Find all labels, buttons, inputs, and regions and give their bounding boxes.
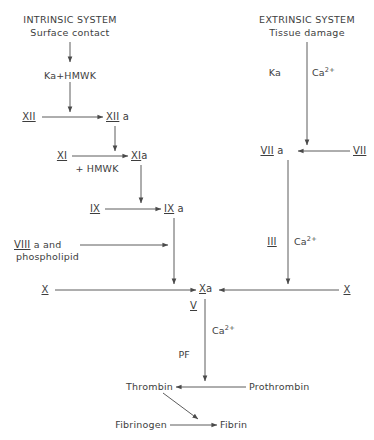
factor-xa: Xa <box>199 283 212 295</box>
extrinsic-calcium-symbol: Ca <box>312 67 325 78</box>
factor-xi-numeral: XI <box>57 150 67 161</box>
common-calcium-charge: 2+ <box>225 324 235 332</box>
factor-xiia-numeral: XII <box>106 111 119 122</box>
platelet-factor-label: PF <box>178 349 190 361</box>
factor-viii-suffix: a and <box>31 239 62 250</box>
factor-vii-numeral: VII <box>353 145 366 156</box>
factor-v-numeral: V <box>190 300 197 311</box>
factor-xii: XII <box>22 111 35 123</box>
extrinsic-calcium-cofactor: Ca2+ <box>294 236 317 248</box>
factor-ixa-suffix: a <box>174 203 184 214</box>
extrinsic-heading-line2: Tissue damage <box>259 27 355 40</box>
factor-xia: XIa <box>131 150 148 162</box>
intrinsic-heading-line1: INTRINSIC SYSTEM <box>23 14 116 27</box>
intrinsic-heading-line2: Surface contact <box>23 27 116 40</box>
factor-x-right-numeral: X <box>343 284 350 295</box>
factor-iii-numeral: III <box>267 236 276 247</box>
extrinsic-system-heading: EXTRINSIC SYSTEM Tissue damage <box>259 14 355 39</box>
common-calcium-cofactor: Ca2+ <box>212 325 235 337</box>
factor-xi: XI <box>57 150 67 162</box>
factor-xia-suffix: a <box>141 150 147 161</box>
fibrin-label: Fibrin <box>220 419 247 431</box>
factor-ix-numeral: IX <box>90 203 100 214</box>
factor-vii: VII <box>353 145 366 157</box>
factor-xiia: XII a <box>106 111 129 123</box>
fibrinogen-label: Fibrinogen <box>115 419 167 431</box>
factor-xia-numeral: XI <box>131 150 141 161</box>
extrinsic-kallikrein-label: Ka <box>269 67 281 79</box>
prothrombin-label: Prothrombin <box>249 381 309 393</box>
phospholipid-label: phospholipid <box>16 251 79 263</box>
common-calcium-symbol: Ca <box>212 325 225 336</box>
coagulation-cascade-diagram: INTRINSIC SYSTEM Surface contact Ka+HMWK… <box>0 0 374 440</box>
hmwk-cofactor-label: + HMWK <box>75 163 118 175</box>
intrinsic-system-heading: INTRINSIC SYSTEM Surface contact <box>23 14 116 39</box>
factor-ix: IX <box>90 203 100 215</box>
factor-xa-suffix: a <box>206 283 212 294</box>
factor-x-left-numeral: X <box>41 284 48 295</box>
factor-viiia-phospholipid: VIII a and phospholipid <box>14 239 79 263</box>
extrinsic-calcium-charge: 2+ <box>325 66 335 74</box>
factor-viia-suffix: a <box>274 145 284 156</box>
factor-x-left: X <box>41 284 48 296</box>
extrinsic-heading-line1: EXTRINSIC SYSTEM <box>259 14 355 27</box>
factor-x-right: X <box>343 284 350 296</box>
factor-ixa: IX a <box>164 203 184 215</box>
factor-xa-numeral: X <box>199 283 206 294</box>
factor-viia: VII a <box>260 145 283 157</box>
factor-viia-numeral: VII <box>260 145 273 156</box>
extrinsic-calcium-cofactor-charge: 2+ <box>307 235 317 243</box>
factor-xiia-suffix: a <box>119 111 129 122</box>
factor-xii-numeral: XII <box>22 111 35 122</box>
arrow-thrombin-to-fibrinogen-conversion <box>163 393 198 419</box>
factor-viii-numeral: VIII <box>14 239 31 250</box>
factor-v: V <box>190 300 197 312</box>
thrombin-label: Thrombin <box>126 381 173 393</box>
factor-ixa-numeral: IX <box>164 203 174 214</box>
extrinsic-calcium-label: Ca2+ <box>312 67 335 79</box>
extrinsic-calcium-cofactor-symbol: Ca <box>294 236 307 247</box>
cascade-connector-lines <box>0 0 374 440</box>
factor-iii: III <box>267 236 276 248</box>
ka-hmwk-label: Ka+HMWK <box>44 70 96 82</box>
